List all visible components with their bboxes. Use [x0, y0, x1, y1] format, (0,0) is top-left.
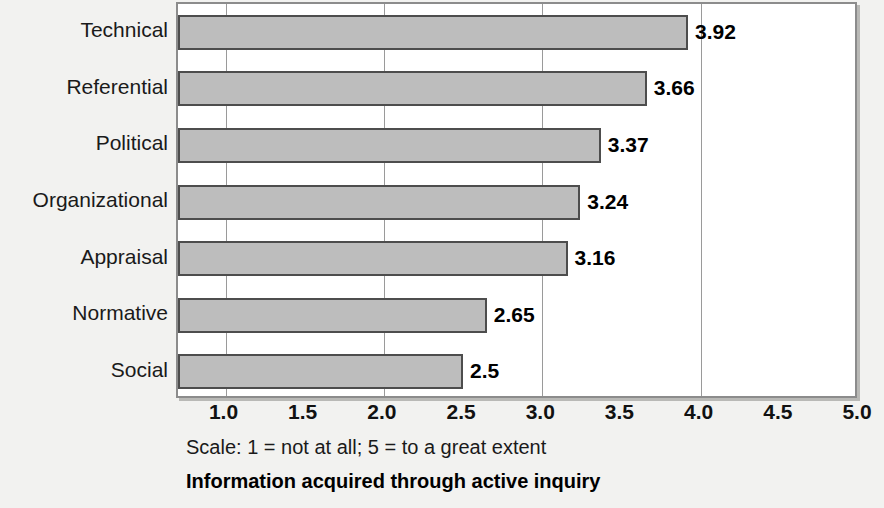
bar[interactable]: [178, 185, 580, 220]
category-label-technical: Technical: [80, 15, 168, 45]
bar-row: 3.37: [178, 128, 859, 163]
bar[interactable]: [178, 354, 463, 389]
value-axis: 1.01.52.02.53.03.54.04.55.0: [176, 400, 857, 434]
category-label-appraisal: Appraisal: [80, 242, 168, 272]
bar[interactable]: [178, 71, 647, 106]
chart-title: Information acquired through active inqu…: [186, 470, 600, 493]
bar-chart-figure: TechnicalReferentialPoliticalOrganizatio…: [0, 0, 884, 508]
bar-row: 2.65: [178, 298, 859, 333]
x-tick-label: 5.0: [842, 400, 871, 424]
bar[interactable]: [178, 298, 487, 333]
bar-value-label: 3.92: [688, 15, 736, 50]
category-label-referential: Referential: [66, 72, 168, 102]
bar-value-label: 3.66: [647, 71, 695, 106]
bar-row: 2.5: [178, 354, 859, 389]
x-tick-label: 1.0: [209, 400, 238, 424]
bar-value-label: 2.5: [463, 354, 499, 389]
x-tick-label: 3.0: [526, 400, 555, 424]
scale-note: Scale: 1 = not at all; 5 = to a great ex…: [186, 436, 546, 459]
bar-value-label: 2.65: [487, 298, 535, 333]
x-tick-label: 2.0: [367, 400, 396, 424]
category-label-normative: Normative: [72, 298, 168, 328]
bar-value-label: 3.24: [580, 185, 628, 220]
bar-row: 3.24: [178, 185, 859, 220]
bar-value-label: 3.16: [568, 241, 616, 276]
bar-row: 3.92: [178, 15, 859, 50]
bar[interactable]: [178, 241, 568, 276]
category-label-social: Social: [111, 355, 168, 385]
bar[interactable]: [178, 128, 601, 163]
category-axis: TechnicalReferentialPoliticalOrganizatio…: [0, 0, 176, 400]
bar-row: 3.66: [178, 71, 859, 106]
bar[interactable]: [178, 15, 688, 50]
plot-area: 3.923.663.373.243.162.652.5: [176, 2, 857, 398]
x-tick-label: 2.5: [446, 400, 475, 424]
bar-value-label: 3.37: [601, 128, 649, 163]
x-tick-label: 4.5: [763, 400, 792, 424]
category-label-organizational: Organizational: [33, 185, 168, 215]
x-tick-label: 3.5: [605, 400, 634, 424]
x-tick-label: 4.0: [684, 400, 713, 424]
category-label-political: Political: [96, 128, 168, 158]
bar-row: 3.16: [178, 241, 859, 276]
x-tick-label: 1.5: [288, 400, 317, 424]
